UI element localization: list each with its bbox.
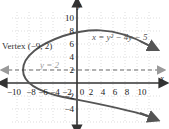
grid-vertical-lines bbox=[17, 12, 149, 122]
x-tick-6: 6 bbox=[113, 87, 118, 97]
x-tick-0: 0 bbox=[80, 87, 85, 97]
y-tick-labels: 10 8 6 4 2 −2 −4 bbox=[64, 13, 74, 114]
y-tick-neg4: −4 bbox=[64, 104, 74, 114]
graph-figure: 10 8 6 4 2 −2 −4 −10 −8 −6 −4 −2 0 2 4 6… bbox=[0, 0, 169, 129]
y-tick-6: 6 bbox=[70, 39, 75, 49]
x-tick-neg8: −8 bbox=[26, 87, 36, 97]
x-tick-neg2: −2 bbox=[62, 87, 72, 97]
equation-annotation: x = y² − 4y − 5 bbox=[91, 32, 148, 42]
x-tick-neg6: −6 bbox=[38, 87, 48, 97]
x-tick-10: 10 bbox=[138, 87, 148, 97]
x-tick-2: 2 bbox=[89, 87, 94, 97]
x-tick-neg10: −10 bbox=[7, 87, 22, 97]
x-axis-label: x bbox=[159, 74, 164, 83]
y-tick-10: 10 bbox=[65, 13, 75, 23]
vertex-annotation: Vertex (−9, 2) bbox=[2, 41, 52, 51]
x-tick-neg4: −4 bbox=[50, 87, 60, 97]
x-tick-4: 4 bbox=[101, 87, 106, 97]
y-tick-2: 2 bbox=[70, 65, 75, 75]
y-tick-8: 8 bbox=[70, 26, 75, 36]
x-tick-8: 8 bbox=[125, 87, 130, 97]
y-tick-4: 4 bbox=[70, 52, 75, 62]
symmetry-annotation: y = 2 bbox=[39, 60, 60, 70]
y-axis-label: y bbox=[76, 1, 81, 10]
coordinate-plane-svg: 10 8 6 4 2 −2 −4 −10 −8 −6 −4 −2 0 2 4 6… bbox=[0, 0, 169, 129]
